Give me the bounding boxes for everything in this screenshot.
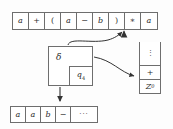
output-tape-cell: b <box>41 107 56 122</box>
stack: ⋮ + Z0 <box>139 42 161 94</box>
input-tape: a + ( a − b ) ∗ a <box>12 12 158 30</box>
input-tape-cell: a <box>13 13 29 29</box>
control-unit: δ q4 <box>48 46 93 86</box>
input-tape-cell: ( <box>45 13 61 29</box>
output-tape-cell-head: − <box>56 107 71 122</box>
control-to-stack-arrow <box>94 57 134 76</box>
input-tape-cell-head: ∗ <box>125 13 141 29</box>
input-tape-cell: + <box>29 13 45 29</box>
input-tape-cell: b <box>93 13 109 29</box>
stack-ellipsis: ⋮ <box>140 42 160 65</box>
output-tape-cell: a <box>26 107 41 122</box>
output-tape: a a b − ··· <box>10 106 98 123</box>
stack-cell-top: + <box>140 65 160 79</box>
stack-cell-bottom: Z0 <box>140 79 160 93</box>
transition-function-label: δ <box>56 53 61 62</box>
current-state-box: q4 <box>69 66 93 86</box>
input-tape-cell: a <box>141 13 157 29</box>
current-state-label: q4 <box>77 71 85 81</box>
output-tape-tail: ··· <box>71 107 97 122</box>
pda-diagram: a + ( a − b ) ∗ a δ q4 ⋮ + Z0 a a b − ··… <box>0 0 173 129</box>
input-tape-cell: ) <box>109 13 125 29</box>
input-tape-cell: − <box>77 13 93 29</box>
input-tape-cell: a <box>61 13 77 29</box>
output-tape-cell: a <box>11 107 26 122</box>
control-to-input-arrow <box>68 32 122 45</box>
